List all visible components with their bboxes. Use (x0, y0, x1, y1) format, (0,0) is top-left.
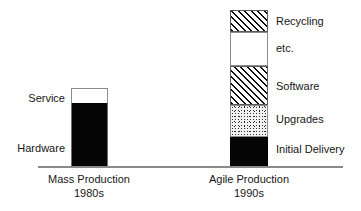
category-era-mass-production: 1980s (19, 186, 159, 200)
bar-segment-software[interactable] (230, 66, 268, 105)
category-label-agile-production: Agile Production 1990s (179, 172, 319, 200)
series-label-etc: etc. (276, 42, 294, 54)
series-label-recycling: Recycling (276, 15, 324, 27)
series-label-hardware: Hardware (17, 142, 65, 154)
series-label-initial-delivery: Initial Delivery (276, 143, 344, 155)
category-name-mass-production: Mass Production (19, 172, 159, 186)
category-name-agile-production: Agile Production (179, 172, 319, 186)
series-label-upgrades: Upgrades (276, 113, 324, 125)
bar-mass-production[interactable] (71, 88, 108, 167)
bar-segment-upgrades[interactable] (230, 105, 268, 137)
bar-agile-production[interactable] (230, 10, 268, 167)
bar-segment-etc[interactable] (230, 32, 268, 66)
bar-segment-hardware[interactable] (71, 103, 108, 167)
series-label-software: Software (276, 80, 319, 92)
axis-baseline (38, 166, 343, 168)
series-label-service: Service (28, 92, 65, 104)
bar-segment-service[interactable] (71, 88, 108, 104)
bar-segment-initial-delivery[interactable] (230, 137, 268, 167)
chart-canvas: Service Hardware Recycling etc. Software… (0, 0, 361, 211)
bar-segment-recycling[interactable] (230, 10, 268, 32)
category-label-mass-production: Mass Production 1980s (19, 172, 159, 200)
category-era-agile-production: 1990s (179, 186, 319, 200)
